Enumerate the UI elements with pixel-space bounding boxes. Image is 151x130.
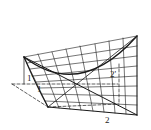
hyperbolic-paraboloid-diagram: 1' 1 2' 2 (0, 0, 151, 130)
top-parabola (24, 36, 137, 74)
label-2: 2 (105, 115, 110, 125)
label-1-prime: 1' (27, 73, 34, 83)
label-1: 1 (37, 84, 42, 94)
ruling-lines (24, 36, 137, 114)
label-2-prime: 2' (110, 69, 117, 79)
back-diagonal (48, 36, 137, 107)
dashed-guides (12, 64, 119, 107)
